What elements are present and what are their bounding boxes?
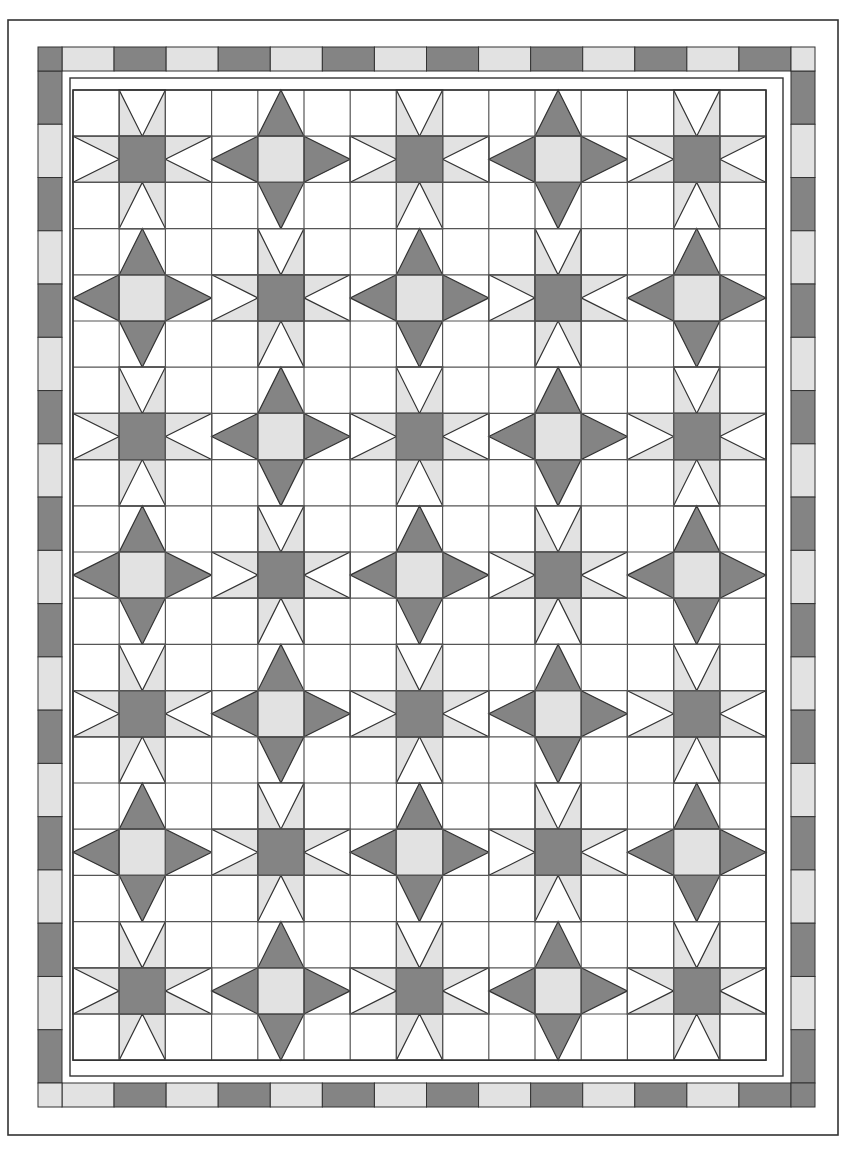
border-tile-left: [38, 444, 62, 497]
border-tile-right: [791, 1030, 815, 1083]
border-corner-bottom-left: [38, 1083, 62, 1107]
border-tile-right: [791, 444, 815, 497]
border-tile-top: [739, 47, 791, 71]
star-center-square: [258, 691, 304, 737]
border-corner-bottom-right: [791, 1083, 815, 1107]
border-tile-top: [270, 47, 322, 71]
border-tile-top: [218, 47, 270, 71]
star-center-square: [258, 968, 304, 1014]
star-center-square: [258, 275, 304, 321]
border-corner-top-left: [38, 47, 62, 71]
border-tile-top: [114, 47, 166, 71]
star-center-square: [119, 968, 165, 1014]
border-tile-right: [791, 976, 815, 1029]
quilt-diagram: [0, 0, 857, 1149]
border-tile-top: [687, 47, 739, 71]
star-center-square: [258, 552, 304, 598]
border-tile-bottom: [374, 1083, 426, 1107]
border-tile-right: [791, 923, 815, 976]
border-tile-bottom: [635, 1083, 687, 1107]
border-tile-bottom: [270, 1083, 322, 1107]
border-tile-top: [635, 47, 687, 71]
star-center-square: [674, 968, 720, 1014]
border-tile-top: [374, 47, 426, 71]
border-tile-left: [38, 178, 62, 231]
star-center-square: [674, 829, 720, 875]
border-tile-left: [38, 550, 62, 603]
border-tile-right: [791, 604, 815, 657]
star-center-square: [674, 136, 720, 182]
star-center-square: [396, 552, 442, 598]
border-tile-bottom: [322, 1083, 374, 1107]
star-center-square: [674, 413, 720, 459]
star-center-square: [258, 413, 304, 459]
border-tile-right: [791, 657, 815, 710]
star-center-square: [396, 691, 442, 737]
border-tile-right: [791, 710, 815, 763]
border-tile-right: [791, 550, 815, 603]
star-center-square: [119, 275, 165, 321]
border-tile-bottom: [114, 1083, 166, 1107]
border-tile-bottom: [166, 1083, 218, 1107]
quilt-pattern-page: [0, 0, 857, 1149]
border-tile-left: [38, 284, 62, 337]
border-tile-right: [791, 124, 815, 177]
border-tile-left: [38, 870, 62, 923]
star-center-square: [396, 968, 442, 1014]
border-tile-bottom: [687, 1083, 739, 1107]
border-tile-left: [38, 976, 62, 1029]
border-tile-bottom: [218, 1083, 270, 1107]
border-tile-right: [791, 284, 815, 337]
border-tile-right: [791, 337, 815, 390]
star-center-square: [535, 136, 581, 182]
border-corner-top-right: [791, 47, 815, 71]
star-center-square: [119, 552, 165, 598]
border-tile-left: [38, 391, 62, 444]
border-tile-left: [38, 710, 62, 763]
border-tile-left: [38, 1030, 62, 1083]
star-center-square: [674, 275, 720, 321]
border-tile-top: [583, 47, 635, 71]
border-tile-top: [479, 47, 531, 71]
border-tile-bottom: [479, 1083, 531, 1107]
border-tile-top: [531, 47, 583, 71]
star-center-square: [535, 968, 581, 1014]
border-tile-left: [38, 817, 62, 870]
star-center-square: [396, 829, 442, 875]
star-center-square: [535, 829, 581, 875]
border-tile-right: [791, 497, 815, 550]
border-tile-bottom: [427, 1083, 479, 1107]
border-tile-right: [791, 178, 815, 231]
star-center-square: [258, 829, 304, 875]
star-center-square: [674, 691, 720, 737]
border-tile-bottom: [531, 1083, 583, 1107]
border-tile-top: [427, 47, 479, 71]
border-tile-left: [38, 71, 62, 124]
border-tile-left: [38, 604, 62, 657]
star-center-square: [119, 136, 165, 182]
border-tile-left: [38, 763, 62, 816]
star-center-square: [396, 136, 442, 182]
star-center-square: [535, 413, 581, 459]
border-tile-left: [38, 497, 62, 550]
border-tile-top: [166, 47, 218, 71]
star-center-square: [119, 413, 165, 459]
border-tile-right: [791, 763, 815, 816]
border-tile-right: [791, 817, 815, 870]
border-tile-bottom: [739, 1083, 791, 1107]
border-tile-right: [791, 391, 815, 444]
border-tile-top: [62, 47, 114, 71]
star-center-square: [258, 136, 304, 182]
border-tile-top: [322, 47, 374, 71]
border-tile-right: [791, 231, 815, 284]
star-center-square: [119, 829, 165, 875]
border-tile-left: [38, 657, 62, 710]
border-tile-bottom: [583, 1083, 635, 1107]
star-center-square: [674, 552, 720, 598]
star-center-square: [396, 413, 442, 459]
star-center-square: [535, 691, 581, 737]
star-center-square: [535, 552, 581, 598]
border-tile-left: [38, 923, 62, 976]
border-tile-left: [38, 124, 62, 177]
border-tile-right: [791, 71, 815, 124]
